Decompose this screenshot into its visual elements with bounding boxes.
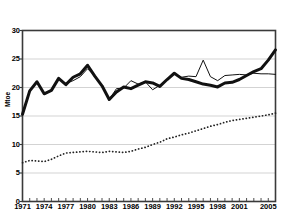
x-axis-tick-label: 1989 <box>142 203 164 211</box>
x-axis-tick-label: 1995 <box>185 203 207 211</box>
plot-area <box>0 0 286 216</box>
x-axis-tick-label: 1992 <box>163 203 185 211</box>
x-axis-tick-label: 1974 <box>33 203 55 211</box>
x-axis-tick-label: 1983 <box>98 203 120 211</box>
x-axis-tick-label: 2005 <box>257 203 279 211</box>
series-line-dotted-series <box>23 113 276 163</box>
x-axis-tick-label: 1980 <box>77 203 99 211</box>
x-axis-tick-label: 1977 <box>55 203 77 211</box>
x-axis-tick-label: 2001 <box>228 203 250 211</box>
chart-container: Mtoe 051015202530 1971197419771980198319… <box>0 0 286 216</box>
series-line-thick-solid-series <box>23 50 276 114</box>
x-axis-tick-label: 1986 <box>120 203 142 211</box>
x-axis-tick-labels: 1971197419771980198319861989199219951998… <box>0 203 286 216</box>
x-axis-tick-label: 1998 <box>207 203 229 211</box>
x-axis-tick-label: 1971 <box>12 203 34 211</box>
